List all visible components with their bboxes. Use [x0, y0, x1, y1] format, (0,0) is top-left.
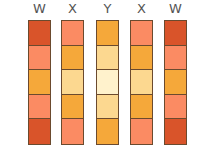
color-strip: [130, 20, 153, 145]
color-cell-light: [97, 95, 118, 120]
color-cell-orange: [29, 70, 50, 95]
color-cell-orange: [131, 46, 152, 71]
color-cell-dark: [29, 21, 50, 46]
column-4: X: [130, 20, 153, 145]
color-cell-orange: [62, 95, 83, 120]
color-cell-pale: [97, 70, 118, 95]
color-cell-salmon: [62, 21, 83, 46]
column-3: Y: [96, 20, 119, 145]
column-1: W: [28, 20, 51, 145]
color-cell-orange: [165, 70, 186, 95]
column-label: X: [61, 2, 84, 16]
color-cell-light: [97, 46, 118, 71]
color-strip: [61, 20, 84, 145]
color-cell-dark: [165, 21, 186, 46]
color-cell-orange: [62, 46, 83, 71]
color-cell-dark: [29, 119, 50, 144]
column-label: X: [130, 2, 153, 16]
column-label: W: [28, 2, 51, 16]
color-cell-dark: [165, 119, 186, 144]
column-label: Y: [96, 2, 119, 16]
color-cell-light: [131, 70, 152, 95]
color-cell-orange: [131, 95, 152, 120]
color-cell-salmon: [29, 46, 50, 71]
color-cell-salmon: [29, 95, 50, 120]
column-5: W: [164, 20, 187, 145]
column-2: X: [61, 20, 84, 145]
color-strip: [28, 20, 51, 145]
color-strip: [96, 20, 119, 145]
color-strip: [164, 20, 187, 145]
color-cell-salmon: [62, 119, 83, 144]
color-cell-light: [62, 70, 83, 95]
color-cell-orange: [97, 119, 118, 144]
column-label: W: [164, 2, 187, 16]
color-cell-salmon: [131, 21, 152, 46]
color-cell-orange: [97, 21, 118, 46]
color-cell-salmon: [165, 46, 186, 71]
color-cell-salmon: [165, 95, 186, 120]
color-cell-salmon: [131, 119, 152, 144]
